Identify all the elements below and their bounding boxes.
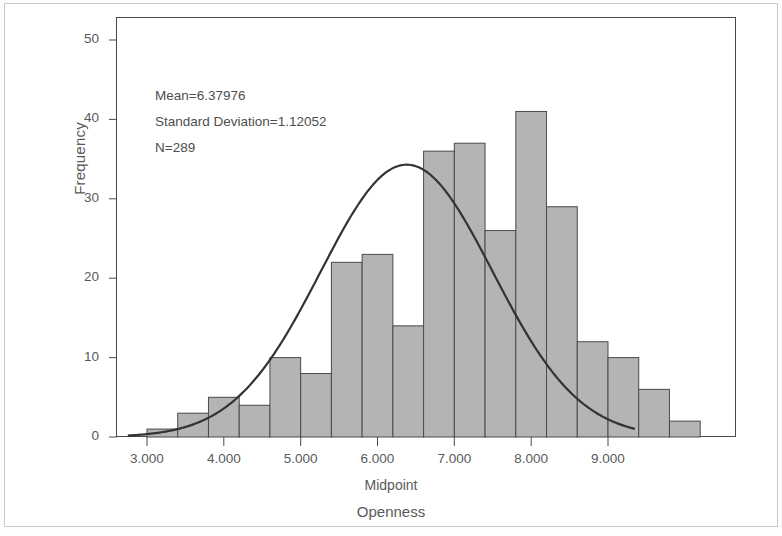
- y-axis-title: Frequency: [71, 79, 88, 239]
- x-axis-title-openness: Openness: [0, 503, 782, 520]
- histogram-bar: [669, 421, 700, 437]
- x-axis-title-midpoint: Midpoint: [0, 477, 782, 493]
- histogram-bar: [639, 389, 670, 437]
- histogram-bar: [516, 111, 547, 437]
- histogram-bar: [424, 151, 455, 437]
- statistics-annotation: Mean=6.37976 Standard Deviation=1.12052 …: [155, 83, 327, 161]
- x-axis-tick-label: 9.000: [573, 451, 643, 466]
- histogram-figure: 01020304050 3.0004.0005.0006.0007.0008.0…: [0, 0, 782, 536]
- stat-standard-deviation: Standard Deviation=1.12052: [155, 109, 327, 135]
- stat-mean: Mean=6.37976: [155, 83, 327, 109]
- x-axis-tick-label: 7.000: [419, 451, 489, 466]
- y-axis-tick-label: 50: [59, 31, 99, 46]
- x-axis-tick-label: 3.000: [112, 451, 182, 466]
- histogram-bar: [577, 342, 608, 437]
- histogram-bar: [331, 262, 362, 437]
- histogram-bar: [485, 231, 516, 437]
- histogram-bar: [270, 358, 301, 437]
- x-axis-tick-label: 6.000: [343, 451, 413, 466]
- stat-n: N=289: [155, 135, 327, 161]
- x-axis-tick-label: 8.000: [496, 451, 566, 466]
- histogram-bar: [208, 397, 239, 437]
- x-axis-ticks: [147, 437, 608, 446]
- histogram-bar: [547, 207, 578, 437]
- histogram-bar: [301, 373, 332, 437]
- x-axis-tick-label: 4.000: [189, 451, 259, 466]
- x-axis-tick-label: 5.000: [266, 451, 336, 466]
- y-axis-tick-label: 20: [59, 269, 99, 284]
- histogram-bar: [362, 254, 393, 437]
- y-axis-tick-label: 10: [59, 349, 99, 364]
- histogram-bar: [454, 143, 485, 437]
- y-axis-ticks: [109, 40, 117, 437]
- histogram-bar: [239, 405, 270, 437]
- y-axis-tick-label: 0: [59, 428, 99, 443]
- histogram-bar: [393, 326, 424, 437]
